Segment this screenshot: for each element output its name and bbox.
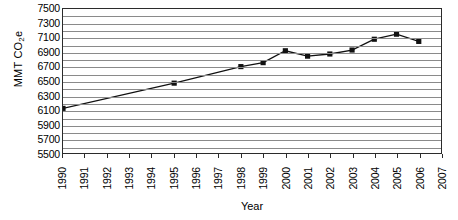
gridline-minor — [63, 133, 441, 134]
x-axis-title: Year — [62, 200, 442, 212]
plot-area — [62, 8, 442, 154]
y-axis-tick-label: 6300 — [18, 91, 60, 101]
y-axis-tick-label: 6700 — [18, 61, 60, 71]
y-axis-tick-label: 6100 — [18, 105, 60, 115]
gridline-minor — [63, 104, 441, 105]
gridline — [63, 53, 441, 54]
y-axis-tick-label: 6500 — [18, 76, 60, 86]
data-point-marker — [349, 47, 354, 52]
y-axis-tick-label: 6900 — [18, 47, 60, 57]
gridline-minor — [63, 46, 441, 47]
y-axis-tick-label: 7100 — [18, 32, 60, 42]
gridline-minor — [63, 89, 441, 90]
gridline — [63, 140, 441, 141]
data-point-marker — [394, 32, 399, 37]
y-axis-tick-labels: 7500730071006900670065006300610059005700… — [18, 8, 60, 154]
gridline — [63, 126, 441, 127]
y-axis-tick-label: 5700 — [18, 134, 60, 144]
gridline — [63, 67, 441, 68]
gridline — [63, 24, 441, 25]
y-axis-tick-label: 7300 — [18, 18, 60, 28]
gridline — [63, 82, 441, 83]
gridline — [63, 97, 441, 98]
gridline-minor — [63, 148, 441, 149]
gridline — [63, 38, 441, 39]
gridline — [63, 111, 441, 112]
emissions-line-chart: MMT CO2e 7500730071006900670065006300610… — [0, 0, 458, 220]
x-axis-tick-labels: 1990199119921993199419951996199719981999… — [62, 158, 442, 196]
data-point-marker — [305, 54, 310, 59]
y-axis-tick-label: 5500 — [18, 149, 60, 159]
gridline-minor — [63, 75, 441, 76]
gridline-minor — [63, 16, 441, 17]
gridline-minor — [63, 60, 441, 61]
y-axis-tick-label: 5900 — [18, 120, 60, 130]
data-point-marker — [416, 39, 421, 44]
gridline-minor — [63, 31, 441, 32]
x-axis-tick-mark — [442, 154, 443, 158]
gridline-minor — [63, 119, 441, 120]
y-axis-tick-label: 7500 — [18, 3, 60, 13]
